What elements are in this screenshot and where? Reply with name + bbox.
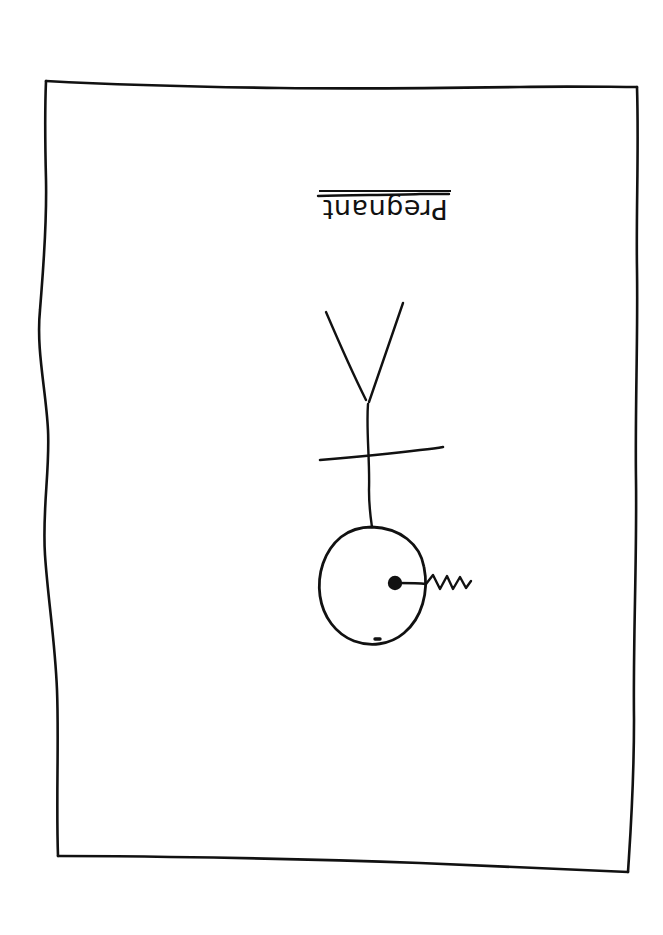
figure-navel-dot: [388, 576, 402, 590]
figure-cord-line: [398, 583, 426, 584]
ink-drawing: [0, 0, 663, 935]
drawing-canvas: Pregnant: [0, 0, 663, 935]
paper-background: [0, 0, 663, 935]
